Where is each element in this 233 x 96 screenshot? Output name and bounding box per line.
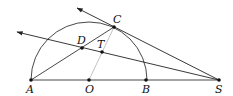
- label-c: C: [113, 13, 122, 26]
- semicircle-arc: [31, 22, 147, 80]
- label-s: S: [215, 83, 223, 96]
- ray-s-t: [17, 32, 219, 80]
- label-a: A: [25, 83, 34, 96]
- label-t: T: [97, 38, 106, 51]
- point-a: [29, 78, 33, 82]
- point-b: [144, 78, 148, 82]
- geometry-diagram: A O B S C D T: [0, 0, 233, 96]
- label-o: O: [85, 83, 94, 96]
- label-b: B: [141, 83, 150, 96]
- label-d: D: [76, 34, 86, 47]
- point-o: [87, 78, 91, 82]
- point-s: [217, 78, 221, 82]
